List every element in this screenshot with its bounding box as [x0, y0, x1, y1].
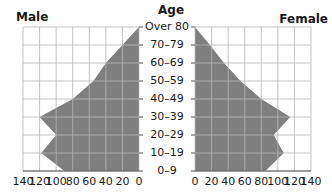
- age-label: 10–19: [139, 146, 195, 159]
- age-label: 60–69: [139, 56, 195, 69]
- female-x-tick: 140: [299, 175, 323, 188]
- age-label: Over 80: [139, 20, 195, 33]
- age-label: 70–79: [139, 38, 195, 51]
- male-x-tick: 0: [127, 175, 151, 188]
- age-label: 20–29: [139, 128, 195, 141]
- age-label: 30–39: [139, 110, 195, 123]
- age-label: 40–49: [139, 92, 195, 105]
- age-label: 50–59: [139, 74, 195, 87]
